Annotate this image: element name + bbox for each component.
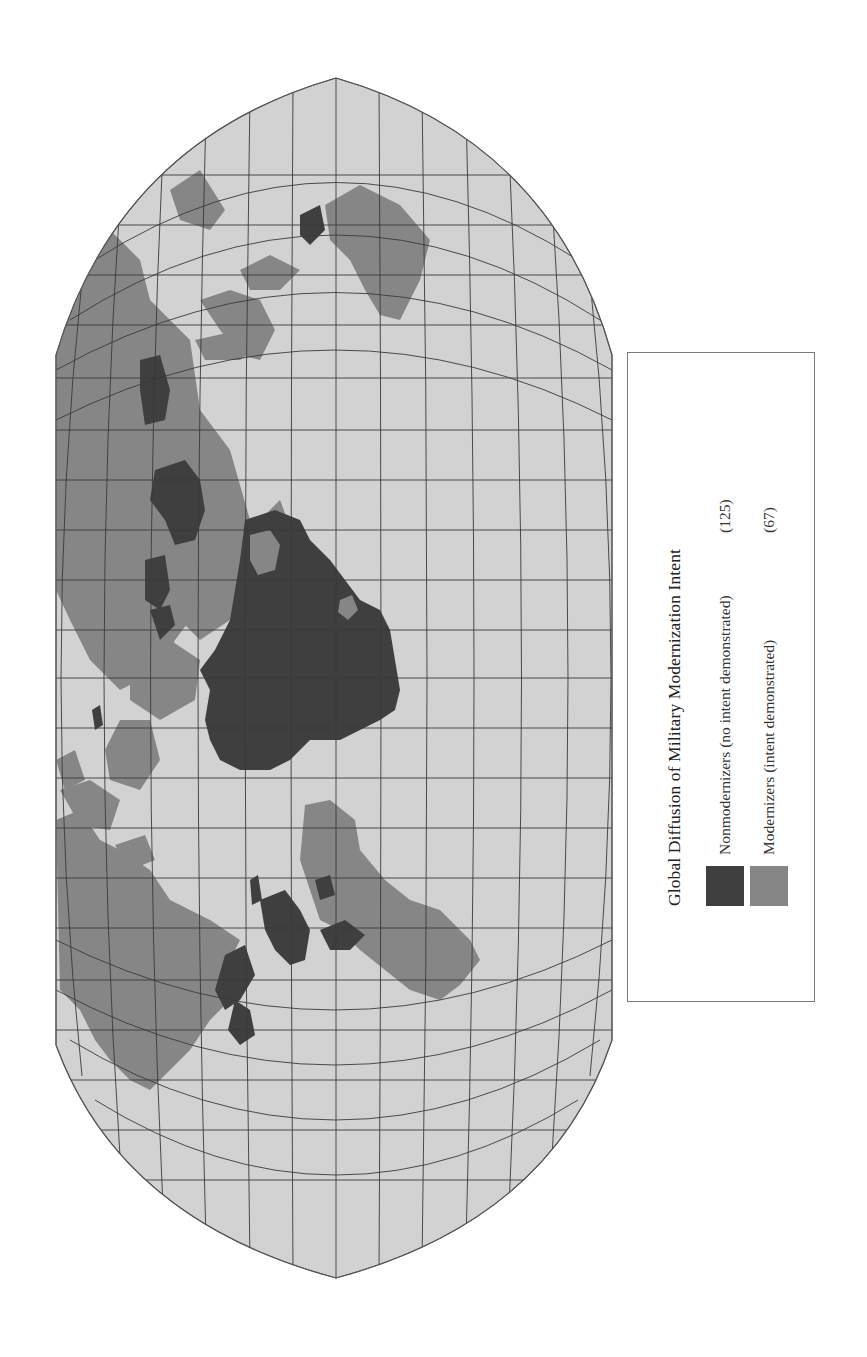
legend-count-modernizers: (67) bbox=[760, 507, 778, 533]
map-legend: Global Diffusion of Military Modernizati… bbox=[627, 352, 815, 1002]
legend-title: Global Diffusion of Military Modernizati… bbox=[664, 549, 685, 906]
legend-label-modernizers: Modernizers (intent demonstrated) bbox=[760, 640, 778, 855]
nonmodernizers-swatch bbox=[706, 866, 744, 906]
legend-item-modernizers: Modernizers (intent demonstrated) (67) bbox=[750, 640, 788, 906]
modernizers-swatch bbox=[750, 866, 788, 906]
legend-item-nonmodernizers: Nonmodernizers (no intent demonstrated) … bbox=[706, 595, 744, 906]
legend-label-nonmodernizers: Nonmodernizers (no intent demonstrated) bbox=[716, 595, 734, 855]
legend-count-nonmodernizers: (125) bbox=[716, 499, 734, 533]
legend-content: Global Diffusion of Military Modernizati… bbox=[628, 353, 816, 1003]
